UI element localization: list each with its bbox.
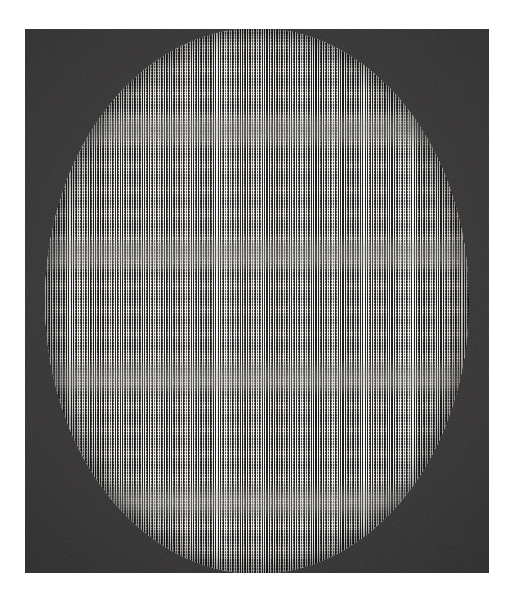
dark-plate <box>25 29 489 573</box>
moire-sphere-figure <box>45 29 469 573</box>
limb-compression-ring <box>45 29 469 573</box>
page-canvas <box>0 0 514 601</box>
